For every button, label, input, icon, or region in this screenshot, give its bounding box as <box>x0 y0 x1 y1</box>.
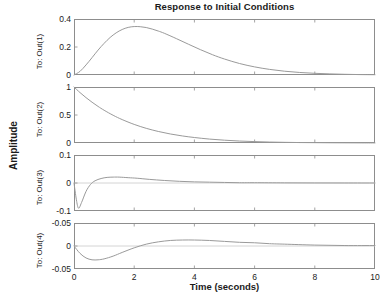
subplot-ylabel-out1: To: Out(1) <box>35 17 44 87</box>
curve-out2 <box>74 87 375 143</box>
y-tick-label: 0 <box>66 71 71 80</box>
y-axis-label: Amplitude <box>8 111 19 181</box>
subplot-ylabel-out4: To: Out(4) <box>35 216 44 286</box>
y-tick-label: 0.4 <box>59 15 71 24</box>
subplot-out1: To: Out(1) 00.20.4 <box>74 19 375 75</box>
y-tick-label: 0.5 <box>59 111 71 120</box>
curve-out4 <box>74 223 375 269</box>
page-title: Response to Initial Conditions <box>74 1 375 12</box>
y-tick-label: -0.05 <box>52 265 71 274</box>
y-tick-label: 1 <box>66 83 71 92</box>
y-tick-label: 0 <box>66 242 71 251</box>
curve-out1 <box>74 19 375 75</box>
y-tick-label: -0.05 <box>52 219 71 228</box>
y-tick-label: 0.2 <box>59 43 71 52</box>
subplot-out2: To: Out(2) 00.51 <box>74 87 375 143</box>
curve-out3 <box>74 155 375 211</box>
y-tick-label: 0 <box>66 139 71 148</box>
y-tick-label: 0 <box>66 179 71 188</box>
subplot-ylabel-out3: To: Out(3) <box>35 153 44 223</box>
x-axis-label: Time (seconds) <box>74 281 375 292</box>
subplot-out3: To: Out(3) -0.100.1 <box>74 155 375 211</box>
y-tick-label: -0.1 <box>56 207 71 216</box>
subplot-out4: To: Out(4) -0.050-0.05 <box>74 223 375 269</box>
y-tick-label: 0.1 <box>59 151 71 160</box>
matlab-figure: Response to Initial Conditions Amplitude… <box>0 0 390 304</box>
subplot-ylabel-out2: To: Out(2) <box>35 85 44 155</box>
